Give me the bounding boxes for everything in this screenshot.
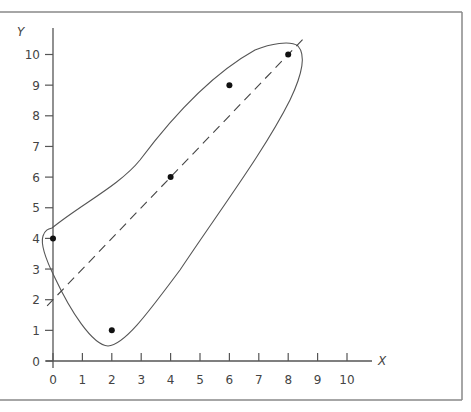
x-tick-label: 0 [49,373,57,387]
y-tick-label: 2 [32,293,40,307]
y-tick-label: 1 [32,324,40,338]
x-tick-label: 7 [255,373,263,387]
y-tick-label: 7 [32,140,40,154]
y-tick-label: 0 [32,355,40,369]
x-tick-label: 5 [196,373,204,387]
data-point [226,82,232,88]
x-tick-label: 2 [108,373,116,387]
y-tick-label: 6 [32,171,40,185]
y-tick-label: 3 [32,263,40,277]
y-ticks: 012345678910 [25,48,53,369]
data-points [50,52,291,334]
x-tick-label: 6 [226,373,234,387]
y-tick-label: 5 [32,201,40,215]
x-tick-label: 1 [79,373,87,387]
data-point [50,235,56,241]
x-tick-label: 3 [137,373,145,387]
x-ticks: 012345678910 [49,353,354,387]
x-tick-label: 8 [284,373,292,387]
enclosing-curve [42,43,302,346]
y-tick-label: 9 [32,79,40,93]
data-point [168,174,174,180]
x-tick-label: 10 [339,373,354,387]
y-tick-label: 4 [32,232,40,246]
x-tick-label: 4 [167,373,175,387]
dashed-fit-line [47,39,303,306]
x-tick-label: 9 [314,373,322,387]
y-axis-label: Y [17,25,26,39]
y-tick-label: 10 [25,48,40,62]
x-axis-label: X [377,354,387,368]
data-point [109,327,115,333]
data-point [285,52,291,58]
chart-canvas: 012345678910 012345678910 Y X [0,0,471,412]
y-tick-label: 8 [32,109,40,123]
